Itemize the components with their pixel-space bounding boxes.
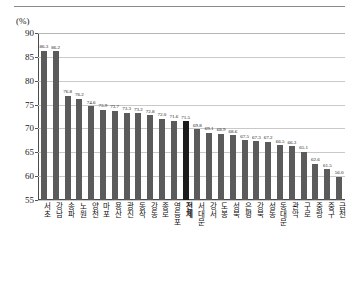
bar-slot[interactable]: 76.8 bbox=[62, 33, 74, 200]
x-axis-tick-label: 서대문 bbox=[192, 202, 204, 226]
bar-slot[interactable]: 67.2 bbox=[262, 33, 274, 200]
bar-slot[interactable]: 68.9 bbox=[215, 33, 227, 200]
bar[interactable] bbox=[242, 140, 248, 200]
bar-slot[interactable]: 73.9 bbox=[97, 33, 109, 200]
bar-value-label: 65.1 bbox=[299, 145, 308, 150]
x-axis-tick-label: 용산 bbox=[109, 202, 121, 218]
bar[interactable] bbox=[183, 121, 189, 200]
bar[interactable] bbox=[194, 129, 200, 200]
bar-value-label: 67.3 bbox=[252, 135, 261, 140]
bar-slot[interactable]: 68.6 bbox=[227, 33, 239, 200]
bar-slot[interactable]: 56.0 bbox=[333, 33, 345, 200]
bar[interactable] bbox=[135, 113, 141, 200]
bar-value-label: 76.8 bbox=[63, 89, 72, 94]
x-axis-tick-label: 관악 bbox=[286, 202, 298, 218]
figure-top-rule bbox=[14, 6, 345, 7]
y-axis-tick-label: 60 bbox=[25, 171, 34, 181]
bar-value-label: 62.6 bbox=[311, 157, 320, 162]
bar[interactable] bbox=[112, 111, 118, 200]
bar-value-label: 74.6 bbox=[87, 100, 96, 105]
bar[interactable] bbox=[312, 164, 318, 200]
bar-value-label: 72.0 bbox=[158, 112, 167, 117]
bar[interactable] bbox=[124, 113, 130, 200]
bar-slot[interactable]: 67.3 bbox=[251, 33, 263, 200]
bar[interactable] bbox=[100, 110, 106, 200]
x-axis-tick-label: 강동 bbox=[144, 202, 156, 218]
bar[interactable] bbox=[277, 145, 283, 200]
bar[interactable] bbox=[65, 96, 71, 200]
bar-slot[interactable]: 72.8 bbox=[144, 33, 156, 200]
bar-slot[interactable]: 65.1 bbox=[298, 33, 310, 200]
y-axis-tick-label: 75 bbox=[25, 100, 34, 110]
x-axis-tick-label: 강서 bbox=[203, 202, 215, 218]
bar-slot[interactable]: 66.5 bbox=[274, 33, 286, 200]
x-axis-tick-label: 마포 bbox=[97, 202, 109, 218]
x-axis-tick-label: 종로 bbox=[156, 202, 168, 218]
bar-chart-figure: (%) 5560657075808590 86.386.276.876.274.… bbox=[0, 0, 359, 289]
bar[interactable] bbox=[336, 177, 342, 200]
y-axis-tick-label: 65 bbox=[25, 147, 34, 157]
bar-slot[interactable]: 71.6 bbox=[168, 33, 180, 200]
y-axis-tick-label: 70 bbox=[25, 123, 34, 133]
y-axis-tick-label: 85 bbox=[25, 52, 34, 62]
bar-slot[interactable]: 86.2 bbox=[50, 33, 62, 200]
bar-slot[interactable]: 73.7 bbox=[109, 33, 121, 200]
bar-value-label: 86.3 bbox=[40, 44, 49, 49]
x-axis-tick-label: 도봉 bbox=[215, 202, 227, 218]
bar-value-label: 73.9 bbox=[99, 103, 108, 108]
bar[interactable] bbox=[159, 119, 165, 200]
bar-slot[interactable]: 61.5 bbox=[321, 33, 333, 200]
bar-value-label: 71.6 bbox=[169, 114, 178, 119]
bar[interactable] bbox=[265, 142, 271, 200]
x-axis-tick-label: 구로 bbox=[298, 202, 310, 218]
bar-value-label: 73.2 bbox=[134, 107, 143, 112]
bar[interactable] bbox=[253, 141, 259, 200]
bar-value-label: 67.5 bbox=[240, 134, 249, 139]
bar-value-label: 56.0 bbox=[335, 170, 344, 175]
bar[interactable] bbox=[301, 152, 307, 200]
bar-value-label: 68.6 bbox=[228, 129, 237, 134]
bar-value-label: 76.2 bbox=[75, 92, 84, 97]
x-axis-tick-label: 강북 bbox=[251, 202, 263, 218]
bar-slot[interactable]: 72.0 bbox=[156, 33, 168, 200]
bar[interactable] bbox=[88, 106, 94, 200]
bar[interactable] bbox=[41, 51, 47, 200]
bar[interactable] bbox=[171, 121, 177, 200]
x-axis-tick-label: 강남 bbox=[50, 202, 62, 218]
bar-slot[interactable]: 71.5 bbox=[180, 33, 192, 200]
bar[interactable] bbox=[206, 133, 212, 200]
x-axis-tick-label: 성북 bbox=[227, 202, 239, 218]
bars-group: 86.386.276.876.274.673.973.773.373.272.8… bbox=[38, 33, 345, 200]
bar-slot[interactable]: 69.8 bbox=[192, 33, 204, 200]
bar-slot[interactable]: 74.6 bbox=[85, 33, 97, 200]
bar-slot[interactable]: 69.1 bbox=[203, 33, 215, 200]
bar-slot[interactable]: 76.2 bbox=[73, 33, 85, 200]
x-axis-tick-label: 동대문 bbox=[274, 202, 286, 226]
y-axis-tick-label: 80 bbox=[25, 76, 34, 86]
bar-value-label: 69.8 bbox=[193, 123, 202, 128]
plot-area: 5560657075808590 86.386.276.876.274.673.… bbox=[38, 33, 345, 200]
x-axis-tick-label: 중구 bbox=[321, 202, 333, 218]
bar[interactable] bbox=[289, 146, 295, 200]
x-axis-tick-label: 중랑 bbox=[310, 202, 322, 218]
bar-slot[interactable]: 66.3 bbox=[286, 33, 298, 200]
bar[interactable] bbox=[147, 115, 153, 200]
bar-slot[interactable]: 73.3 bbox=[121, 33, 133, 200]
bar-value-label: 71.5 bbox=[181, 115, 190, 120]
bar[interactable] bbox=[230, 135, 236, 200]
bar-slot[interactable]: 73.2 bbox=[132, 33, 144, 200]
y-axis-tick-label: 55 bbox=[25, 195, 34, 205]
x-axis-tick-label: 광진 bbox=[121, 202, 133, 218]
bar-slot[interactable]: 62.6 bbox=[310, 33, 322, 200]
bar[interactable] bbox=[53, 51, 59, 200]
y-axis-tick-label: 90 bbox=[25, 28, 34, 38]
bar-value-label: 86.2 bbox=[51, 45, 60, 50]
gridline bbox=[38, 200, 345, 201]
bar-slot[interactable]: 86.3 bbox=[38, 33, 50, 200]
bar[interactable] bbox=[218, 134, 224, 200]
bar[interactable] bbox=[76, 99, 82, 200]
x-axis-tick-label: 양천 bbox=[85, 202, 97, 218]
bar[interactable] bbox=[324, 169, 330, 200]
bar-value-label: 66.3 bbox=[287, 140, 296, 145]
bar-slot[interactable]: 67.5 bbox=[239, 33, 251, 200]
